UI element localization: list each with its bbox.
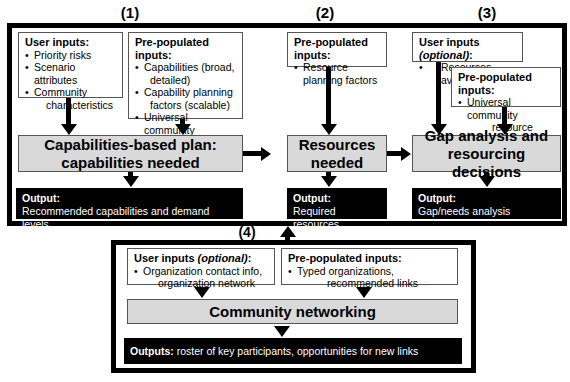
arrow-right-icon: [401, 147, 411, 161]
arrow-up-icon: [280, 226, 296, 237]
s1-user-inputs-box: User inputs: Priority risks Scenario att…: [18, 32, 123, 98]
arrow-down-icon: [274, 326, 290, 337]
s2-prepop-connector: [326, 67, 331, 126]
arrow-down-icon: [194, 287, 210, 298]
arrow-down-icon: [175, 124, 191, 135]
s3-user-connector: [436, 62, 441, 126]
arrow-down-icon: [321, 124, 337, 135]
arrow-down-icon: [61, 124, 77, 135]
list-item: Priority risks: [25, 49, 116, 62]
s4-prepopulated-heading: Pre-populated inputs:: [288, 252, 451, 265]
arrow-down-icon: [479, 176, 495, 187]
s2-prepopulated-heading: Pre-populated inputs:: [294, 36, 380, 61]
s4-user-inputs-heading: User inputs (optional):: [134, 252, 268, 265]
s3-prepopulated-heading: Pre-populated inputs:: [458, 71, 554, 96]
list-item: Resource planning factors: [294, 61, 380, 86]
section-4-label: (4): [232, 224, 262, 240]
s4-prepopulated-box: Pre-populated inputs: Typed organization…: [281, 248, 458, 285]
s2-prepopulated-box: Pre-populated inputs: Resource planning …: [287, 32, 387, 67]
s3-user-inputs-heading: User inputs (optional):: [419, 36, 516, 61]
list-item: Capability planningfactors (scalable): [135, 86, 236, 111]
list-item: Organization contact info,organization n…: [134, 265, 268, 290]
arrow-down-icon: [356, 287, 372, 298]
s3-prepopulated-box: Pre-populated inputs: Universal communit…: [451, 67, 561, 107]
list-item: Scenario attributes: [25, 61, 116, 86]
s1-to-s2-connector: [243, 151, 263, 156]
s1-process-capabilities-plan: Capabilities-based plan:capabilities nee…: [18, 135, 243, 172]
section-1-label: (1): [115, 4, 145, 21]
arrow-down-icon: [123, 176, 139, 187]
s3-user-inputs-box: User inputs (optional): Resources availa…: [412, 32, 523, 62]
s1-prepopulated-heading: Pre-populated inputs:: [135, 36, 236, 61]
s1-user-connector: [66, 98, 71, 126]
s1-prepopulated-box: Pre-populated inputs: Capabilities (broa…: [128, 32, 243, 119]
s1-user-inputs-heading: User inputs:: [25, 36, 116, 49]
section-3-label: (3): [472, 4, 502, 21]
list-item: Capabilities (broad,detailed): [135, 61, 236, 86]
section-2-label: (2): [310, 4, 340, 21]
s2-process-resources-needed: Resourcesneeded: [287, 135, 387, 172]
list-item: Typed organizations,recommended links: [288, 265, 451, 290]
s1-output-box: Output: Recommended capabilities and dem…: [16, 188, 243, 219]
s3-process-gap-analysis: Gap analysis andresourcing decisions: [412, 135, 561, 172]
arrow-down-icon: [321, 176, 337, 187]
s4-output-box: Outputs: roster of key participants, opp…: [124, 338, 462, 364]
s3-output-box: Output: Gap/needs analysis: [412, 188, 561, 219]
s4-process-community-networking: Community networking: [127, 299, 458, 324]
arrow-right-icon: [261, 147, 271, 161]
s2-output-box: Output: Required resources: [287, 188, 387, 219]
s4-user-inputs-box: User inputs (optional): Organization con…: [127, 248, 275, 285]
